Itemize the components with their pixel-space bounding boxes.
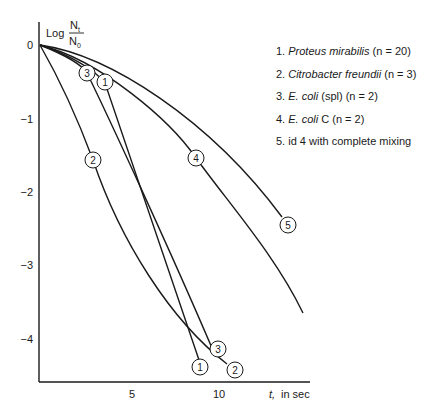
x-axis-label: t, in sec — [269, 388, 310, 400]
svg-text:−4: −4 — [20, 333, 33, 345]
legend-detail: (n = 20) — [370, 45, 411, 57]
svg-text:2: 2 — [90, 155, 96, 166]
legend-number: 1. — [276, 45, 288, 57]
legend-detail: (n = 3) — [381, 68, 416, 80]
svg-text:Log: Log — [46, 27, 64, 39]
svg-text:−3: −3 — [20, 259, 33, 271]
legend: 1. Proteus mirabilis (n = 20) 2. Citroba… — [276, 40, 416, 153]
legend-species: Proteus mirabilis — [288, 45, 369, 57]
legend-species: Citrobacter freundii — [288, 68, 381, 80]
curve-marker-2-end: 2 — [227, 362, 243, 378]
legend-number: 2. — [276, 68, 288, 80]
svg-text:1: 1 — [102, 77, 108, 88]
curve-marker-3-top: 3 — [79, 65, 95, 81]
curve-marker-4: 4 — [188, 150, 204, 166]
y-axis-label: Log N t N 0 — [46, 19, 84, 49]
svg-text:−2: −2 — [20, 186, 33, 198]
curve-marker-1-end: 1 — [192, 359, 208, 375]
svg-text:5: 5 — [285, 220, 291, 231]
svg-text:t,: t, — [269, 388, 275, 400]
legend-item-4: 4. E. coli C (n = 2) — [276, 108, 416, 131]
svg-text:−1: −1 — [20, 113, 33, 125]
curve-marker-3-end: 3 — [210, 341, 226, 357]
svg-text:1: 1 — [197, 362, 203, 373]
svg-text:2: 2 — [232, 365, 238, 376]
legend-number: 5. — [276, 135, 288, 147]
legend-item-2: 2. Citrobacter freundii (n = 3) — [276, 63, 416, 86]
svg-text:in sec: in sec — [281, 388, 310, 400]
svg-text:0: 0 — [77, 42, 81, 49]
curve-marker-2-top: 2 — [85, 152, 101, 168]
legend-detail: (spl) (n = 2) — [318, 90, 378, 102]
svg-text:3: 3 — [215, 344, 221, 355]
y-tick-labels: 0 −1 −2 −3 −4 — [20, 39, 33, 345]
legend-number: 3. — [276, 90, 288, 102]
svg-text:3: 3 — [84, 68, 90, 79]
curve-5 — [40, 45, 282, 217]
svg-text:10: 10 — [213, 388, 225, 400]
svg-text:4: 4 — [193, 153, 199, 164]
svg-text:N: N — [70, 19, 78, 31]
legend-species: E. coli — [288, 113, 318, 125]
svg-text:5: 5 — [129, 388, 135, 400]
legend-species: E. coli — [288, 90, 318, 102]
curve-4 — [40, 45, 303, 313]
x-tick-labels: 5 10 — [129, 388, 225, 400]
legend-detail: C (n = 2) — [318, 113, 364, 125]
curve-marker-5: 5 — [280, 217, 296, 233]
svg-text:0: 0 — [27, 39, 33, 51]
legend-item-5: 5. id 4 with complete mixing — [276, 130, 416, 153]
legend-item-3: 3. E. coli (spl) (n = 2) — [276, 85, 416, 108]
curve-3 — [40, 45, 212, 348]
legend-number: 4. — [276, 113, 288, 125]
legend-item-1: 1. Proteus mirabilis (n = 20) — [276, 40, 416, 63]
svg-text:t: t — [78, 26, 80, 33]
svg-text:N: N — [69, 35, 77, 47]
curve-marker-1-top: 1 — [97, 74, 113, 90]
legend-detail: id 4 with complete mixing — [288, 135, 411, 147]
